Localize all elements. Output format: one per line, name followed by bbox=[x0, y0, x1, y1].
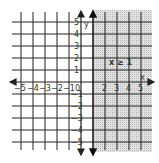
svg-text:5: 5 bbox=[138, 84, 143, 93]
svg-text:−2: −2 bbox=[51, 84, 63, 93]
svg-text:4: 4 bbox=[126, 84, 131, 93]
svg-text:−1: −1 bbox=[71, 90, 83, 99]
y-axis-label: y bbox=[84, 20, 89, 29]
svg-text:−3: −3 bbox=[39, 84, 51, 93]
svg-text:2: 2 bbox=[102, 84, 107, 93]
svg-text:3: 3 bbox=[74, 42, 79, 51]
svg-text:−4: −4 bbox=[71, 126, 83, 135]
x-axis-label: x bbox=[140, 73, 145, 82]
svg-text:−5: −5 bbox=[14, 84, 26, 93]
svg-text:−3: −3 bbox=[71, 114, 83, 123]
svg-text:2: 2 bbox=[74, 54, 79, 63]
svg-text:4: 4 bbox=[74, 30, 79, 39]
svg-text:−5: −5 bbox=[71, 138, 83, 147]
svg-text:3: 3 bbox=[114, 84, 119, 93]
svg-text:−4: −4 bbox=[27, 84, 39, 93]
inequality-label: x ≥ 1 bbox=[109, 58, 132, 67]
svg-text:1: 1 bbox=[74, 66, 79, 75]
svg-text:5: 5 bbox=[74, 18, 79, 27]
inequality-graph: y x x ≥ 1 −5 −4 −3 −2 −1 0 2 3 4 5 5 4 3… bbox=[0, 0, 159, 163]
svg-text:−2: −2 bbox=[71, 102, 83, 111]
